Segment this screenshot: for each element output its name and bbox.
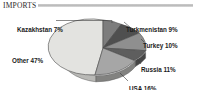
- pie-label-turkmenistan: Turkmenistan 9%: [126, 26, 178, 33]
- chart-area: Kazakhstan 7% Turkmenistan 9% Turkey 10%…: [0, 9, 200, 90]
- pie-label-turkey: Turkey 10%: [143, 42, 178, 49]
- pie-label-kazakhstan: Kazakhstan 7%: [17, 26, 63, 33]
- pie-label-usa: USA 16%: [129, 85, 156, 90]
- pie-chart-graphic: [0, 9, 200, 90]
- pie-label-russia: Russia 11%: [141, 66, 176, 73]
- imports-pie-chart-figure: IMPORTS: [0, 0, 200, 90]
- header-divider: [38, 4, 193, 7]
- pie-label-other: Other 47%: [12, 57, 43, 64]
